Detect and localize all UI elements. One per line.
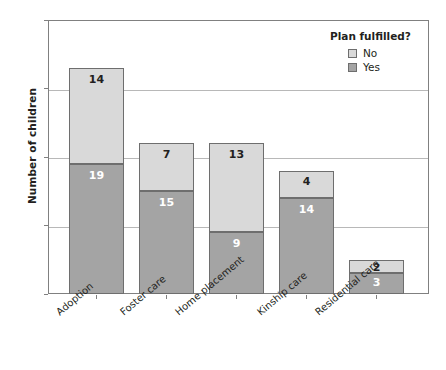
bar-value-kinship-care-yes: 14 xyxy=(299,199,314,215)
legend-item-no[interactable]: No xyxy=(348,47,434,59)
legend-item-yes[interactable]: Yes xyxy=(348,61,434,73)
bar-value-kinship-care-no: 4 xyxy=(303,172,311,187)
legend-swatch-yes-icon xyxy=(348,63,357,72)
x-tick-mark-foster-care xyxy=(166,295,167,299)
y-axis-title: Number of children xyxy=(26,56,38,236)
x-tick-mark-home-placement xyxy=(236,295,237,299)
bar-value-home-placement-no: 13 xyxy=(229,144,244,160)
legend-label-no: No xyxy=(363,47,377,59)
bar-value-adoption-yes: 19 xyxy=(89,165,104,181)
bar-value-foster-care-no: 7 xyxy=(163,144,171,160)
x-tick-mark-residential-care xyxy=(376,295,377,299)
y-tick-mark-0 xyxy=(44,294,48,295)
bar-value-residential-care-yes: 3 xyxy=(373,274,381,288)
legend-title: Plan fulfilled? xyxy=(330,30,434,42)
legend: Plan fulfilled? No Yes xyxy=(330,30,434,75)
bar-adoption[interactable]: 14 19 xyxy=(69,68,124,294)
legend-swatch-no-icon xyxy=(348,49,357,58)
bar-segment-adoption-yes[interactable]: 19 xyxy=(69,164,124,294)
x-tick-mark-kinship-care xyxy=(306,295,307,299)
bar-segment-kinship-care-no[interactable]: 4 xyxy=(279,171,334,198)
bar-segment-foster-care-no[interactable]: 7 xyxy=(139,143,194,191)
bar-foster-care[interactable]: 7 15 xyxy=(139,143,194,294)
bar-value-foster-care-yes: 15 xyxy=(159,192,174,208)
bar-segment-home-placement-no[interactable]: 13 xyxy=(209,143,264,232)
stacked-bar-chart: Number of children 0 10 20 30 40 14 19 xyxy=(0,0,446,370)
legend-label-yes: Yes xyxy=(363,61,380,73)
bar-value-adoption-no: 14 xyxy=(89,69,104,85)
x-tick-mark-adoption xyxy=(96,295,97,299)
bar-value-home-placement-yes: 9 xyxy=(233,233,241,249)
bar-segment-adoption-no[interactable]: 14 xyxy=(69,68,124,164)
bar-segment-foster-care-yes[interactable]: 15 xyxy=(139,191,194,294)
